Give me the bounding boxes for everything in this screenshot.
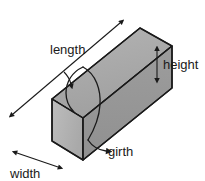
diagram-canvas: length height width girth	[0, 0, 205, 181]
width-dimension: width	[9, 153, 58, 181]
width-label: width	[9, 166, 40, 181]
height-label: height	[163, 57, 199, 72]
width-arrow	[17, 153, 58, 167]
girth-label: girth	[108, 144, 133, 159]
box-dimension-diagram: length height width girth	[0, 0, 205, 181]
length-label: length	[50, 42, 85, 57]
